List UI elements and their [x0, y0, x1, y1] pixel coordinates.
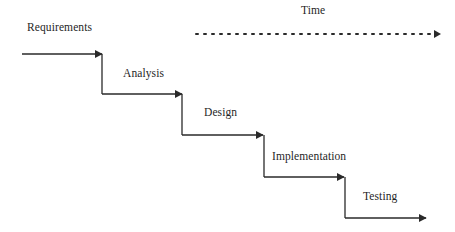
time-axis-arrow [196, 30, 441, 38]
phase-label-implementation: Implementation [272, 150, 346, 162]
phase-label-design: Design [204, 106, 237, 118]
step-implementation-arrow [264, 177, 345, 218]
phase-label-requirements: Requirements [27, 21, 92, 33]
step-requirements-arrow [22, 54, 102, 94]
phase-label-testing: Testing [363, 190, 397, 202]
time-axis-label: Time [301, 4, 325, 16]
phase-label-analysis: Analysis [123, 67, 164, 79]
step-design-arrow [182, 135, 264, 177]
step-analysis-arrow [102, 94, 182, 135]
